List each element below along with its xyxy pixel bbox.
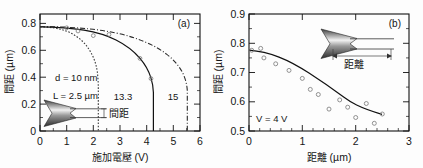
panel-a-ytick-2: 0.4 [21, 71, 36, 83]
panel-a-ytick-3: 0.6 [21, 44, 36, 56]
panel-a-plot: 0 1 2 3 4 5 6 [0, 0, 212, 168]
panel-b-xtick-0: 0 [246, 135, 252, 147]
panel-b-xtick-1: 1 [299, 135, 305, 147]
panel-b: 0 1 2 3 [211, 0, 423, 168]
panel-a-xtick-1: 1 [64, 135, 70, 147]
panel-a-xtick-4: 4 [144, 135, 150, 147]
panel-b-ytick-2: 0.7 [230, 66, 245, 78]
annotation-13-3: 13.3 [114, 91, 133, 102]
panel-a-xlabel: 施加電壓(V) [92, 151, 149, 163]
tip-arrow-icon [44, 100, 76, 127]
panel-a-ytick-4: 0.8 [21, 17, 36, 29]
panel-a-label: (a) [178, 18, 190, 29]
inset-distance-label-b: 距離 [344, 58, 364, 70]
annotation-d-10nm: d = 10 nm [55, 72, 98, 83]
tip-arrow-icon-b [321, 29, 357, 59]
figure-container: 0 1 2 3 4 5 6 [0, 0, 423, 168]
panel-a: 0 1 2 3 4 5 6 [0, 0, 212, 168]
panel-b-ytick-0: 0.5 [230, 125, 245, 137]
panel-b-ytick-3: 0.8 [230, 37, 245, 49]
panel-b-plot: 0 1 2 3 [211, 0, 423, 168]
panel-a-ytick-1: 0.2 [21, 98, 36, 110]
panel-b-ytick-1: 0.6 [230, 95, 245, 107]
panel-b-ylabel: 間距(µm) [212, 50, 224, 95]
panel-b-xtick-2: 2 [353, 135, 359, 147]
panel-b-ytick-4: 0.9 [230, 8, 245, 20]
panel-a-xtick-3: 3 [117, 135, 123, 147]
annotation-L: L = 2.5 µm [53, 90, 98, 101]
panel-a-ytick-0: 0 [30, 125, 36, 137]
panel-b-xlabel: 距離(µm) [307, 151, 352, 163]
annotation-voltage: V = 4 V [256, 113, 288, 124]
panel-a-xtick-5: 5 [170, 135, 176, 147]
panel-b-label: (b) [389, 18, 401, 29]
panel-a-xtick-2: 2 [90, 135, 96, 147]
panel-a-xtick-0: 0 [37, 135, 43, 147]
annotation-15: 15 [168, 91, 179, 102]
inset-gap-label-a: 間距 [109, 108, 129, 119]
panel-a-xtick-6: 6 [197, 135, 203, 147]
panel-b-tip-inset: 距離 [321, 29, 394, 70]
panel-a-ylabel: 間距(µm) [3, 50, 15, 95]
panel-b-xtick-3: 3 [406, 135, 412, 147]
